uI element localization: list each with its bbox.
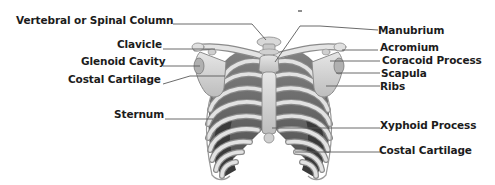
label-scapula: Scapula <box>381 67 427 79</box>
label-clavicle: Clavicle <box>117 38 162 50</box>
label-vertebral-column: Vertebral or Spinal Column <box>16 14 173 26</box>
rib-cage-diagram: Vertebral or Spinal Column Clavicle Glen… <box>0 0 495 185</box>
right-scapula <box>312 52 344 97</box>
label-acromium: Acromium <box>380 41 439 53</box>
label-xyphoid-process: Xyphoid Process <box>380 119 476 131</box>
left-scapula <box>194 52 226 97</box>
label-sternum: Sternum <box>114 108 164 120</box>
vertebra <box>257 37 281 55</box>
label-costal-cartilage-left: Costal Cartilage <box>68 73 161 85</box>
label-costal-cartilage-right: Costal Cartilage <box>379 144 472 156</box>
label-glenoid-cavity: Glenoid Cavity <box>81 55 166 67</box>
label-ribs: Ribs <box>380 80 405 92</box>
sternum-bone <box>259 55 279 143</box>
label-manubrium: Manubrium <box>378 24 444 36</box>
label-coracoid-process: Coracoid Process <box>382 54 482 66</box>
